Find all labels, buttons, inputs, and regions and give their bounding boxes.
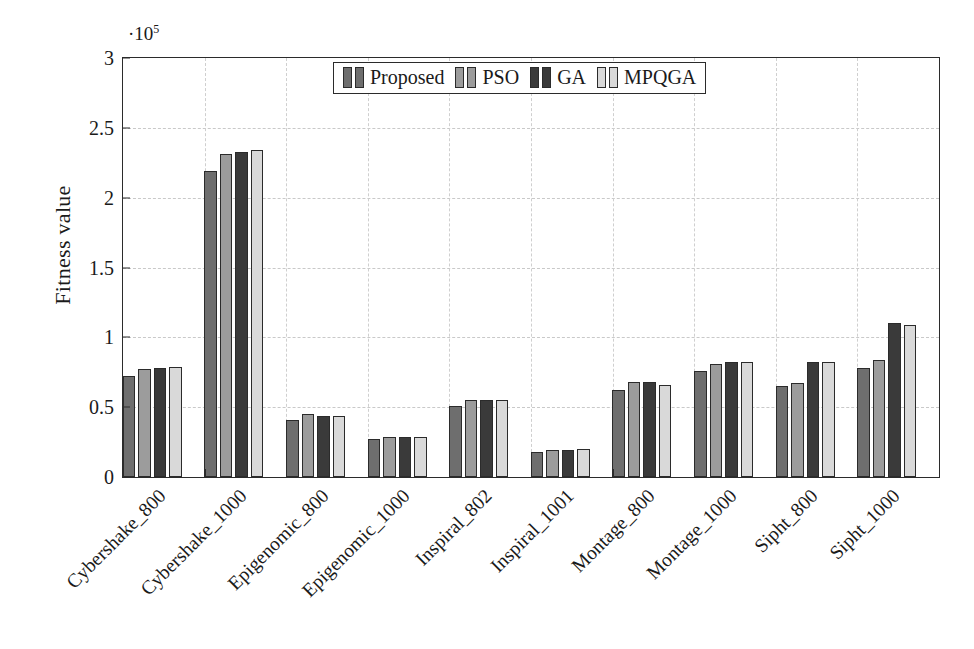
x-tick-label: Sipht_1000 [825, 485, 904, 564]
bar-group [368, 58, 427, 477]
legend-swatch-icon [609, 67, 618, 88]
legend-swatch-icon [542, 67, 551, 88]
bar-group [776, 58, 835, 477]
y-tick-mark [123, 127, 130, 128]
y-tick-label: 2 [104, 186, 114, 209]
bar-group [612, 58, 671, 477]
x-tick-label: Sipht_800 [751, 485, 823, 557]
bar-proposed-montage_1000 [694, 371, 707, 477]
x-tick-mark [205, 469, 206, 477]
y-tick-mark [123, 58, 130, 59]
bar-proposed-montage_800 [612, 390, 625, 477]
plot-area: 00.511.522.53 [122, 57, 940, 478]
bar-group [123, 58, 182, 477]
bar-pso-sipht_800 [791, 383, 804, 477]
x-tick-mark [776, 469, 777, 477]
y-tick-label: 1 [104, 326, 114, 349]
bar-pso-epigenomic_1000 [383, 437, 396, 478]
y-tick-label: 0 [104, 466, 114, 489]
bar-proposed-cybershake_1000 [204, 171, 217, 477]
legend-entry-ga[interactable]: GA [530, 66, 586, 89]
bar-proposed-inspiral_1001 [531, 452, 544, 477]
y-tick-label: 1.5 [89, 256, 114, 279]
x-tick-mark [449, 469, 450, 477]
bar-ga-epigenomic_1000 [399, 437, 412, 478]
legend-swatch-icon [597, 67, 606, 88]
legend-label: Proposed [370, 66, 444, 89]
y-tick-label: 0.5 [89, 396, 114, 419]
bar-group [204, 58, 263, 477]
y-axis-exponent-base: ·10 [128, 23, 153, 44]
x-tick-mark [613, 469, 614, 477]
y-tick-label: 2.5 [89, 116, 114, 139]
legend-swatch-icon [467, 67, 476, 88]
bar-ga-epigenomic_800 [317, 416, 330, 477]
bar-ga-sipht_800 [807, 362, 820, 477]
bar-group [286, 58, 345, 477]
bar-mpqga-montage_1000 [741, 362, 754, 477]
bar-proposed-sipht_800 [776, 386, 789, 477]
bar-pso-montage_800 [628, 382, 641, 477]
bar-ga-cybershake_800 [154, 368, 167, 477]
x-tick-label: Inspiral_802 [411, 485, 496, 570]
legend-entry-mpqga[interactable]: MPQGA [597, 66, 696, 89]
bar-ga-montage_1000 [725, 362, 738, 477]
y-axis-exponent-power: 5 [153, 22, 159, 36]
bar-group [857, 58, 916, 477]
bar-pso-epigenomic_800 [302, 414, 315, 477]
bar-proposed-inspiral_802 [449, 406, 462, 477]
bar-proposed-sipht_1000 [857, 368, 870, 477]
bar-group [694, 58, 753, 477]
bar-proposed-cybershake_800 [123, 376, 136, 477]
bar-mpqga-cybershake_1000 [251, 150, 264, 477]
bar-proposed-epigenomic_800 [286, 420, 299, 477]
legend-swatch-icon [355, 67, 364, 88]
y-axis-exponent-label: ·105 [128, 22, 159, 45]
bar-pso-cybershake_1000 [220, 154, 233, 477]
x-tick-mark [531, 469, 532, 477]
bar-ga-montage_800 [643, 382, 656, 477]
bar-chart-figure: Fitness value ·105 00.511.522.53 Cybersh… [0, 0, 974, 649]
y-axis-label: Fitness value [50, 135, 76, 355]
legend-entry-proposed[interactable]: Proposed [343, 66, 444, 89]
legend-swatch-icon [455, 67, 464, 88]
bar-ga-inspiral_802 [480, 400, 493, 477]
bar-pso-inspiral_1001 [546, 450, 559, 477]
legend-entry-pso[interactable]: PSO [455, 66, 519, 89]
x-tick-mark [694, 469, 695, 477]
y-tick-mark [123, 477, 130, 478]
bar-pso-cybershake_800 [138, 369, 151, 477]
x-tick-mark [368, 469, 369, 477]
bar-group [449, 58, 508, 477]
bar-mpqga-epigenomic_1000 [414, 437, 427, 478]
bar-mpqga-sipht_1000 [904, 325, 917, 477]
bar-group [531, 58, 590, 477]
legend-label: GA [557, 66, 586, 89]
bar-mpqga-cybershake_800 [169, 367, 182, 477]
bar-ga-sipht_1000 [888, 323, 901, 477]
bar-mpqga-sipht_800 [822, 362, 835, 477]
y-tick-mark [123, 337, 130, 338]
x-tick-mark [857, 469, 858, 477]
bar-pso-sipht_1000 [873, 360, 886, 477]
bar-mpqga-inspiral_802 [496, 400, 509, 477]
bar-mpqga-epigenomic_800 [333, 416, 346, 477]
legend-swatch-icon [343, 67, 352, 88]
x-tick-mark [286, 469, 287, 477]
legend-swatch-icon [530, 67, 539, 88]
y-tick-mark [123, 197, 130, 198]
bar-mpqga-inspiral_1001 [577, 449, 590, 477]
bar-pso-montage_1000 [710, 364, 723, 477]
bar-ga-cybershake_1000 [235, 152, 248, 477]
bar-mpqga-montage_800 [659, 385, 672, 477]
y-tick-mark [123, 407, 130, 408]
y-tick-mark [123, 267, 130, 268]
legend-label: PSO [482, 66, 519, 89]
legend-label: MPQGA [624, 66, 696, 89]
bar-pso-inspiral_802 [465, 400, 478, 477]
bar-proposed-epigenomic_1000 [368, 439, 381, 477]
legend: ProposedPSOGAMPQGA [333, 62, 706, 94]
bar-ga-inspiral_1001 [562, 450, 575, 477]
bars-layer [123, 58, 939, 477]
x-tick-label: Inspiral_1001 [486, 485, 578, 577]
